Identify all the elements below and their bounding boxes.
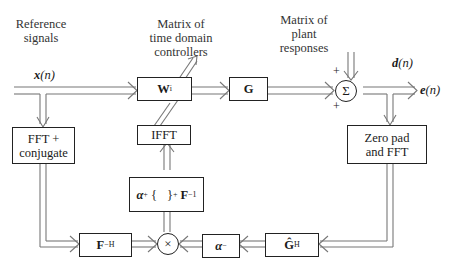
GH-sup: H <box>294 238 300 252</box>
W-subscript: i <box>170 82 172 96</box>
plant-label-line3: responses <box>262 41 346 55</box>
times-symbol: × <box>164 236 171 252</box>
FH-sup: −H <box>104 238 114 252</box>
signal-d-label: d(n) <box>392 56 413 71</box>
brace-subscript: + <box>173 188 178 202</box>
fft-label-line1: FFT + <box>28 132 60 146</box>
reference-label-line1: Reference <box>10 17 72 31</box>
G-hat-H-block[interactable]: ĜH <box>265 233 319 257</box>
constraint-block[interactable]: α+ { }+ F−1 <box>129 177 204 212</box>
alpha-minus-block[interactable]: α− <box>202 234 240 258</box>
fft-conjugate-block[interactable]: FFT + conjugate <box>12 127 75 164</box>
plus-sign-bottom: + <box>333 99 340 114</box>
zero-pad-fft-block[interactable]: Zero pad and FFT <box>347 125 427 164</box>
alpha-plus-sup: + <box>143 188 148 202</box>
controller-block-W[interactable]: Wi <box>137 77 192 101</box>
multiplier-junction: × <box>157 233 179 255</box>
F-inverse-symbol: F <box>180 188 188 202</box>
reference-label-line2: signals <box>10 31 72 45</box>
controllers-label-line1: Matrix of <box>126 17 236 31</box>
signal-x-arg: (n) <box>40 68 55 82</box>
sigma-symbol: Σ <box>342 83 350 99</box>
plant-block-G[interactable]: G <box>229 77 268 101</box>
plant-label-line2: plant <box>262 27 346 41</box>
signal-e-label: e(n) <box>420 83 440 98</box>
zeropad-label-line2: and FFT <box>366 145 409 159</box>
plant-label: Matrix of plant responses <box>262 13 346 55</box>
alpha-minus-symbol: α <box>215 239 222 253</box>
controllers-label-line2: time domain <box>126 31 236 45</box>
plus-sign-top: + <box>333 64 340 79</box>
ifft-block[interactable]: IFFT <box>137 125 191 145</box>
F-inverse-sup: −1 <box>188 188 197 202</box>
ifft-label: IFFT <box>151 128 177 142</box>
signal-d-arg: (n) <box>398 56 413 70</box>
brace-open: { <box>151 188 157 202</box>
controllers-label: Matrix of time domain controllers <box>126 17 236 59</box>
alpha-plus-symbol: α <box>136 188 143 202</box>
G-symbol: G <box>244 82 254 96</box>
controllers-label-line3: controllers <box>126 45 236 59</box>
GH-symbol: Ĝ <box>284 238 294 252</box>
reference-signals-label: Reference signals <box>10 17 72 45</box>
signal-e-arg: (n) <box>426 83 441 97</box>
alpha-minus-sup: − <box>222 239 227 253</box>
fft-label-line2: conjugate <box>19 146 68 160</box>
F-minus-H-block[interactable]: F−H <box>79 233 132 257</box>
zeropad-label-line1: Zero pad <box>365 131 410 145</box>
W-symbol: W <box>157 82 170 96</box>
plant-label-line1: Matrix of <box>262 13 346 27</box>
FH-symbol: F <box>97 238 105 252</box>
signal-x-label: x(n) <box>34 68 55 83</box>
